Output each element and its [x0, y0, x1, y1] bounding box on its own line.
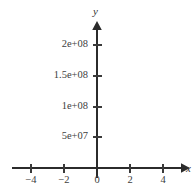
- x-axis-label: x: [186, 163, 191, 174]
- chart-figure: 2e+08 1.5e+08 1e+08 5e+07 −4 −2 0 2 4 x …: [0, 0, 195, 192]
- y-tick-label-5e07: 5e+07: [24, 131, 88, 142]
- y-tick-label-1e08: 1e+08: [24, 101, 88, 112]
- y-axis-label: y: [93, 6, 98, 17]
- y-tick-label-1p5e08: 1.5e+08: [24, 70, 88, 81]
- y-tick-label-2e08: 2e+08: [24, 39, 88, 50]
- y-axis-arrow-icon: [92, 21, 102, 30]
- x-tick-label-2: 2: [116, 175, 144, 186]
- x-tick-label-minus4: −4: [17, 175, 45, 186]
- x-tick-label-4: 4: [149, 175, 177, 186]
- x-tick-label-zero: 0: [83, 175, 111, 186]
- x-tick-label-minus2: −2: [50, 175, 78, 186]
- axes-canvas: [0, 0, 195, 192]
